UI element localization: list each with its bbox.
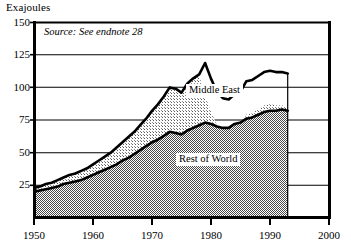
x-axis-ticks bbox=[34, 218, 329, 225]
series-label-rest-of-world: Rest of World bbox=[176, 153, 240, 166]
series-label-middle-east: Middle East bbox=[186, 84, 243, 97]
chart-plot-area bbox=[0, 0, 351, 252]
chart-container: Exajoules 150 125 100 75 50 25 1950 1960… bbox=[0, 0, 351, 252]
source-annotation: Source: See endnote 28 bbox=[44, 26, 142, 37]
